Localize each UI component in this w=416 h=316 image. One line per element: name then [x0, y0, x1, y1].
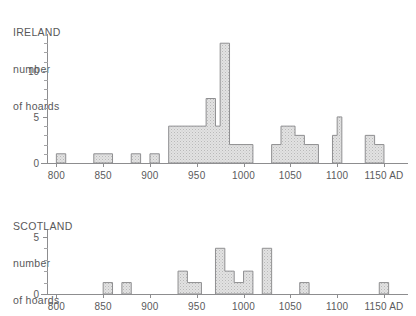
- scotland-bars-group: [103, 248, 388, 294]
- ireland-xtick-label: 800: [48, 170, 66, 181]
- scotland-ytick-label: 5: [33, 232, 39, 243]
- scotland-bar-group: [122, 283, 131, 294]
- ireland-xtick-label: 1150 AD: [364, 170, 403, 181]
- ireland-bar-group: [150, 154, 159, 163]
- ireland-xtick-label: 850: [95, 170, 113, 181]
- ireland-bar-group: [332, 117, 341, 163]
- scotland-xtick-label: 1050: [279, 301, 302, 312]
- scotland-xtick-label: 950: [188, 301, 206, 312]
- hoards-chart-figure: IRELAND number of hoards 800850900950100…: [0, 0, 416, 316]
- ireland-chart-panel: IRELAND number of hoards 800850900950100…: [0, 0, 416, 190]
- ireland-bar-group: [94, 154, 113, 163]
- scotland-bar-group: [262, 248, 271, 294]
- scotland-xtick-label: 1150 AD: [364, 301, 403, 312]
- ireland-bar-group: [56, 154, 65, 163]
- ireland-bar-group: [131, 154, 140, 163]
- ireland-xtick-label: 1100: [326, 170, 349, 181]
- ireland-plot-area: 8008509009501000105011001150 AD0510: [0, 0, 416, 190]
- scotland-bar-group: [379, 283, 388, 294]
- scotland-xtick-label: 900: [141, 301, 159, 312]
- ireland-xtick-label: 1000: [232, 170, 255, 181]
- ireland-xtick-label: 950: [188, 170, 206, 181]
- scotland-xtick-label: 1000: [232, 301, 255, 312]
- ireland-ytick-label: 10: [28, 66, 40, 77]
- scotland-bar-group: [178, 271, 201, 294]
- scotland-xtick-label: 1100: [326, 301, 349, 312]
- ireland-bar-group: [365, 135, 384, 163]
- scotland-bar-group: [215, 248, 252, 294]
- ireland-bar-group: [272, 126, 319, 163]
- ireland-bars-group: [56, 43, 384, 163]
- ireland-ytick-label: 5: [33, 112, 39, 123]
- scotland-bar-group: [103, 283, 112, 294]
- scotland-xtick-label: 800: [48, 301, 66, 312]
- scotland-ytick-label: 0: [33, 289, 39, 300]
- ireland-bar-group: [169, 43, 253, 163]
- ireland-xtick-label: 1050: [279, 170, 302, 181]
- scotland-chart-panel: SCOTLAND number of hoards 80085090095010…: [0, 190, 416, 316]
- scotland-xtick-label: 850: [95, 301, 113, 312]
- scotland-bar-group: [300, 283, 309, 294]
- scotland-plot-area: 8008509009501000105011001150 AD05: [0, 190, 416, 316]
- ireland-xtick-label: 900: [141, 170, 159, 181]
- ireland-ytick-label: 0: [33, 158, 39, 169]
